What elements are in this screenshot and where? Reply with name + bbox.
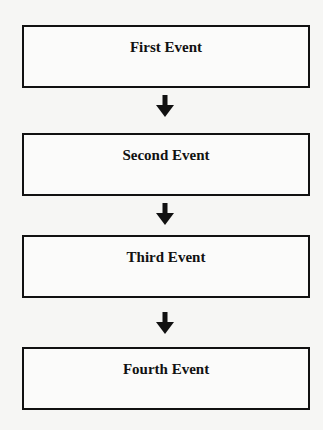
event-label: Fourth Event xyxy=(24,361,308,378)
event-box-third: Third Event xyxy=(22,235,310,298)
down-arrow-icon xyxy=(155,95,175,117)
down-arrow-icon xyxy=(155,312,175,334)
event-box-fourth: Fourth Event xyxy=(22,347,310,410)
event-box-second: Second Event xyxy=(22,133,310,196)
event-box-first: First Event xyxy=(22,25,310,88)
down-arrow-icon xyxy=(155,203,175,225)
event-label: Second Event xyxy=(24,147,308,164)
event-label: Third Event xyxy=(24,249,308,266)
event-label: First Event xyxy=(24,39,308,56)
